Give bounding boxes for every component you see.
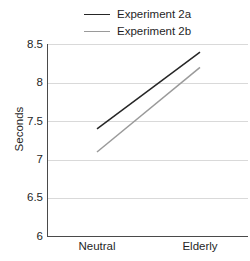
- series-line-experiment-2a: [97, 52, 200, 129]
- chart-canvas: [0, 0, 250, 261]
- line-chart-figure: Experiment 2a Experiment 2b Seconds 8.5 …: [0, 0, 250, 261]
- x-tick-label-neutral: Neutral: [52, 240, 142, 252]
- x-tick-label-elderly: Elderly: [155, 240, 245, 252]
- series-line-experiment-2b: [97, 67, 200, 152]
- plot-area: Seconds 8.5 8 7.5 7 6.5 6: [0, 0, 250, 261]
- gridlines: [47, 45, 248, 199]
- axis-spines: [47, 44, 248, 237]
